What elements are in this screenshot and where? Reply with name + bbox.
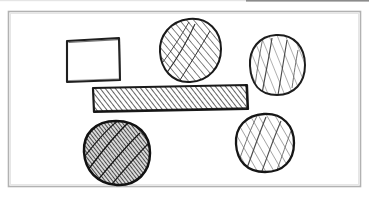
sketch-canvas: Hand-drawn geometric shapes sketch [0,0,369,198]
scan-edge-line-left [0,0,246,1]
empty-square [67,38,120,82]
hand-drawn-shapes-drawing [0,0,369,198]
scan-edge-line [246,0,369,2]
